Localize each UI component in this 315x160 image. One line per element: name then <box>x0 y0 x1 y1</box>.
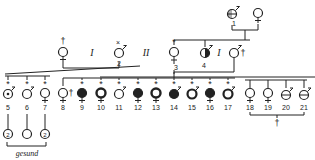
svg-text:×: × <box>116 39 120 46</box>
gen3-19 <box>264 89 273 104</box>
gen4-child-1: 2 <box>4 130 13 139</box>
gen2-male-4 <box>201 46 213 58</box>
marriage-I-right: I <box>216 47 221 58</box>
id-9: 9 <box>80 104 84 111</box>
id-21: 21 <box>300 104 308 111</box>
svg-text:*: * <box>6 79 10 89</box>
id-19: 19 <box>264 104 272 111</box>
svg-text:†: † <box>68 88 73 98</box>
gen3-5: * <box>4 79 16 99</box>
marriage-I-left: I <box>89 47 94 58</box>
gen4-child-2 <box>23 130 32 139</box>
id-13: 13 <box>152 104 160 111</box>
gen2-female-3: * <box>170 37 179 64</box>
gesund-label: gesund <box>16 149 40 158</box>
gen1-female <box>254 9 263 24</box>
id-7: 7 <box>43 104 47 111</box>
id-5: 5 <box>6 104 10 111</box>
svg-text:*: * <box>43 79 47 89</box>
id-15: 15 <box>188 104 196 111</box>
id-12: 12 <box>134 104 142 111</box>
gen3-10: * <box>97 79 106 103</box>
gen2-male-deceased: † <box>230 46 246 59</box>
id-6: 6 <box>25 104 29 111</box>
id-18: 18 <box>246 104 254 111</box>
id-16: 16 <box>206 104 214 111</box>
id-11: 11 <box>115 104 122 111</box>
gen3-9: * <box>78 79 87 103</box>
gen3-18 <box>246 89 255 104</box>
svg-text:*: * <box>80 79 84 89</box>
deceased-cross-mark: † <box>274 118 279 128</box>
id-3: 3 <box>174 64 178 71</box>
id-10: 10 <box>97 104 105 111</box>
svg-text:*: * <box>136 79 140 89</box>
svg-text:†: † <box>60 36 65 46</box>
id-17: 17 <box>224 104 232 111</box>
svg-text:*: * <box>226 79 230 89</box>
pedigree-diagram: 1 † I × 2 II * 3 4 I † <box>0 0 315 160</box>
gen3-17: * <box>224 79 236 99</box>
gen3-12: * <box>134 79 143 103</box>
gen2-male-2: × <box>115 39 127 58</box>
gen3-14: * <box>170 79 182 99</box>
svg-text:*: * <box>172 79 176 89</box>
gen3-8: † <box>59 88 74 103</box>
id-20: 20 <box>282 104 290 111</box>
svg-text:*: * <box>190 79 194 89</box>
svg-text:†: † <box>240 48 245 58</box>
id-4: 4 <box>202 62 206 69</box>
id-1: 1 <box>232 20 236 27</box>
gen3-16: * <box>206 79 215 103</box>
gen3-20 <box>282 88 294 100</box>
marriage-II: II <box>142 47 150 58</box>
gen1-male-1 <box>228 7 240 19</box>
gen3-21 <box>300 88 312 100</box>
id-8: 8 <box>61 104 65 111</box>
id-14: 14 <box>170 104 178 111</box>
gen3-15: * <box>188 79 200 99</box>
svg-text:*: * <box>172 37 176 47</box>
gen2-female-deceased: † <box>59 36 68 62</box>
svg-text:*: * <box>208 79 212 89</box>
gen3-13: * <box>152 79 161 103</box>
svg-text:*: * <box>25 79 29 89</box>
gen3-7: * <box>41 79 50 103</box>
gen4-child-3: 2 <box>41 130 50 139</box>
svg-text:*: * <box>117 79 121 89</box>
gen3-6: * <box>23 79 35 99</box>
gen3-11: * <box>115 79 127 99</box>
